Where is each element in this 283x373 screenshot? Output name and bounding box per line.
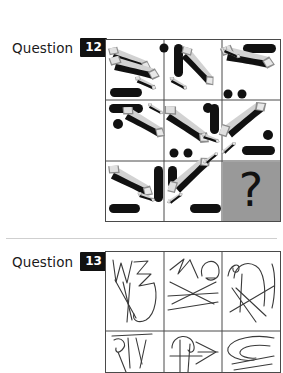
matrix-12-cell-r2c2: [159, 98, 221, 158]
question-12-matrix[interactable]: ?: [105, 39, 281, 222]
question-mark-marker: ?: [239, 163, 263, 217]
matrix-13-cell-r1c3: [228, 264, 275, 322]
question-13-matrix[interactable]: [105, 251, 281, 373]
question-13-label-row: Question 13: [12, 252, 107, 271]
matrix-13-cell-r2c2: [170, 336, 218, 372]
question-13-number-badge: 13: [80, 252, 107, 271]
question-block-13: Question 13: [0, 244, 283, 336]
question-12-number-badge: 12: [80, 38, 107, 57]
question-13-label: Question: [12, 254, 73, 270]
matrix-12-cell-r1c3: [217, 40, 277, 78]
question-block-12: Question 12: [0, 20, 283, 230]
section-divider: [6, 238, 277, 239]
matrix-13-cell-r1c1: [113, 260, 156, 322]
matrix-13-svg: [106, 252, 280, 372]
matrix-13-cell-r2c3: [228, 336, 274, 370]
matrix-12-cell-r3c1: [106, 158, 163, 213]
matrix-13-cell-r1c2: [168, 259, 219, 310]
matrix-12-svg: ?: [106, 40, 280, 221]
matrix-12-cell-r1c2: [160, 41, 218, 93]
matrix-12-cell-r2c1: [109, 99, 168, 145]
matrix-12-cell-r1c1: [106, 41, 162, 97]
question-12-label-row: Question 12: [12, 38, 107, 57]
matrix-12-cell-r2c3: [213, 90, 275, 156]
matrix-13-cell-r2c1: [112, 334, 152, 372]
question-12-label: Question: [12, 40, 73, 56]
matrix-12-missing-cell[interactable]: ?: [223, 162, 280, 221]
